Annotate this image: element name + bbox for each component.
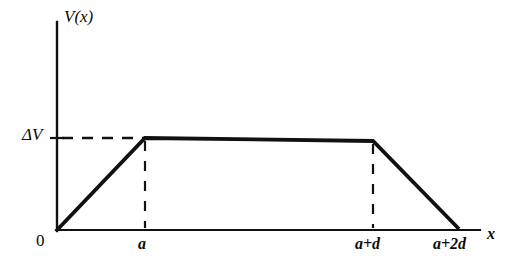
potential-barrier-figure: V(x) ΔV 0 a a+d a+2d x — [0, 0, 528, 269]
x-tick-label-a-plus-d: a+d — [355, 236, 380, 252]
x-tick-label-a: a — [138, 236, 146, 252]
potential-curve — [58, 138, 459, 229]
plot-canvas — [0, 0, 528, 269]
x-tick-label-a-plus-2d: a+2d — [433, 236, 466, 252]
y-axis-label: V(x) — [64, 8, 93, 25]
origin-label: 0 — [36, 232, 45, 249]
x-axis-label: x — [487, 226, 495, 242]
delta-v-label: ΔV — [22, 126, 42, 143]
